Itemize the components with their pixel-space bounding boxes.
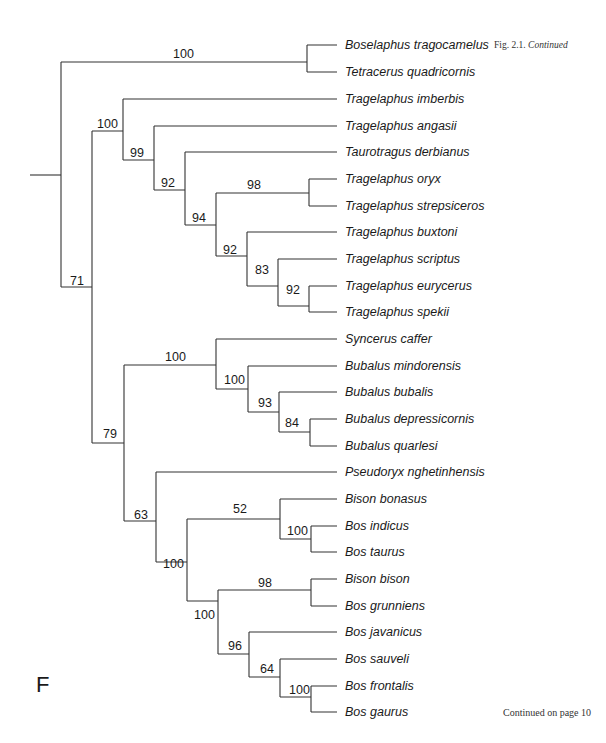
support-value: 100 — [165, 350, 186, 364]
support-value: 79 — [103, 427, 117, 441]
leaf-label: Boselaphus tragocamelus — [345, 38, 489, 52]
leaf-label: Bos indicus — [345, 519, 409, 533]
support-value: 100 — [287, 524, 308, 538]
figure-continued: Continued — [528, 40, 568, 50]
support-value: 63 — [134, 508, 148, 522]
leaf-label: Tragelaphus imberbis — [345, 92, 464, 106]
support-value: 98 — [258, 576, 272, 590]
leaf-label: Bison bison — [345, 572, 410, 586]
support-value: 84 — [285, 416, 299, 430]
support-value: 100 — [194, 608, 215, 622]
support-value: 100 — [173, 47, 194, 61]
leaf-label: Bos gaurus — [345, 705, 408, 719]
leaf-label: Bison bonasus — [345, 492, 427, 506]
panel-letter: F — [36, 672, 49, 698]
leaf-label: Bos frontalis — [345, 679, 414, 693]
support-value: 83 — [255, 263, 269, 277]
leaf-label: Syncerus caffer — [345, 332, 432, 346]
support-value: 100 — [163, 557, 184, 571]
support-value: 100 — [289, 683, 310, 697]
support-value: 100 — [224, 373, 245, 387]
support-value: 52 — [233, 502, 247, 516]
tree-branches — [30, 45, 337, 712]
leaf-label: Pseudoryx nghetinhensis — [345, 465, 485, 479]
support-value: 94 — [192, 211, 206, 225]
support-value: 92 — [223, 243, 237, 257]
leaf-label: Taurotragus derbianus — [345, 145, 470, 159]
leaf-label: Tragelaphus buxtoni — [345, 225, 457, 239]
support-value: 92 — [161, 176, 175, 190]
support-value: 98 — [247, 178, 261, 192]
support-value: 93 — [258, 396, 272, 410]
leaf-label: Bubalus depressicornis — [345, 412, 474, 426]
support-value: 99 — [130, 146, 144, 160]
support-value: 100 — [97, 117, 118, 131]
phylogenetic-tree — [0, 0, 606, 743]
leaf-label: Tetracerus quadricornis — [345, 65, 475, 79]
leaf-label: Tragelaphus spekii — [345, 305, 449, 319]
leaf-label: Bubalus bubalis — [345, 385, 433, 399]
leaf-label: Bubalus quarlesi — [345, 439, 437, 453]
continued-note: Continued on page 10 — [503, 707, 591, 718]
leaf-label: Bos sauveli — [345, 652, 409, 666]
leaf-label: Tragelaphus scriptus — [345, 252, 460, 266]
leaf-label: Tragelaphus oryx — [345, 172, 441, 186]
leaf-label: Bubalus mindorensis — [345, 359, 461, 373]
leaf-label: Bos grunniens — [345, 599, 425, 613]
leaf-label: Tragelaphus strepsiceros — [345, 199, 484, 213]
leaf-label: Tragelaphus eurycerus — [345, 279, 472, 293]
support-value: 71 — [70, 274, 84, 288]
support-value: 64 — [260, 662, 274, 676]
leaf-label: Bos javanicus — [345, 625, 422, 639]
support-value: 92 — [286, 283, 300, 297]
leaf-label: Tragelaphus angasii — [345, 119, 457, 133]
leaf-label: Bos taurus — [345, 545, 405, 559]
figure-number: Fig. 2.1. — [494, 40, 526, 50]
figure-caption: Fig. 2.1. Continued — [494, 40, 568, 50]
support-value: 96 — [228, 639, 242, 653]
